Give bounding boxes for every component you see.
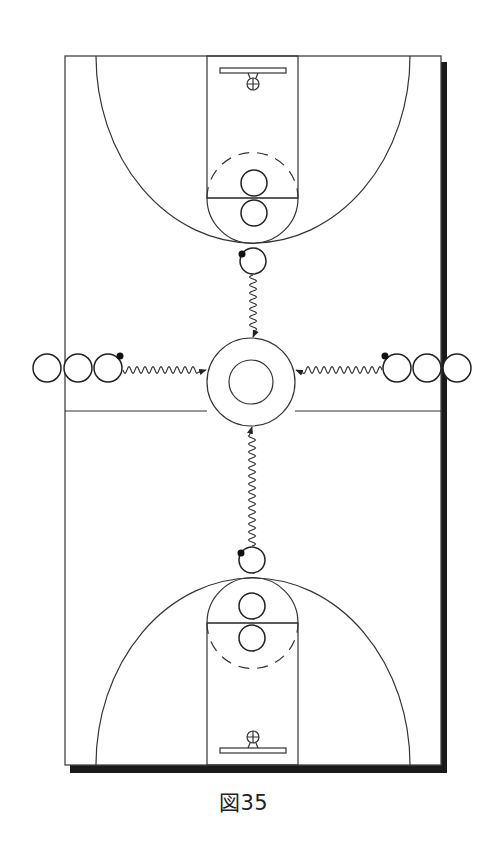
player-top-key-1 (241, 170, 267, 196)
player-left-line-2 (64, 354, 92, 382)
figure-caption: 図35 (0, 786, 487, 816)
player-right-line-2 (413, 354, 441, 382)
ball-right-dribbler (382, 353, 389, 360)
ball-bottom-dribbler (238, 550, 245, 557)
ball-top-dribbler (239, 251, 246, 258)
court-diagram (0, 0, 487, 846)
player-top-key-2 (241, 200, 267, 226)
ball-left-dribbler (117, 353, 124, 360)
player-bottom-key-2 (239, 625, 265, 651)
player-left-line-3 (33, 354, 61, 382)
player-bottom-key-1 (239, 593, 265, 619)
player-right-line-3 (443, 354, 471, 382)
